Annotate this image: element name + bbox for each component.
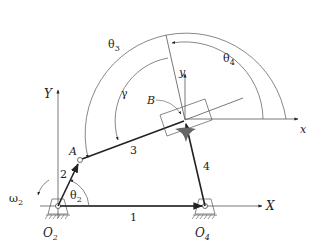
coupler-gusset: [175, 128, 196, 143]
theta3-label: θ3: [108, 38, 120, 53]
joint-a: [78, 158, 83, 163]
link-4-label: 4: [203, 160, 210, 173]
link-2-label: 2: [60, 168, 67, 181]
global-x-label: X: [265, 199, 275, 213]
coupler-extension-line: [185, 98, 243, 120]
omega2-arrow: [38, 180, 49, 195]
omega2-label: ω2: [9, 192, 23, 207]
global-y-label: Y: [44, 87, 53, 101]
link-3-label: 3: [130, 144, 137, 157]
point-o4-label: O4: [195, 226, 210, 242]
gamma-label: γ: [121, 87, 128, 100]
point-b-label: B: [146, 94, 155, 107]
local-y-label: y: [178, 66, 186, 79]
local-x-label: x: [300, 123, 307, 136]
theta4-label: θ4: [223, 52, 235, 67]
ground-pivot-o2: [45, 199, 70, 219]
four-bar-linkage-diagram: Y X x y θ3 θ4 γ θ2 ω2 A B O2 O4: [0, 0, 325, 249]
link-1-label: 1: [130, 211, 137, 224]
point-o2-label: O2: [43, 226, 58, 242]
point-a-label: A: [68, 145, 77, 158]
theta2-label: θ2: [70, 189, 82, 204]
